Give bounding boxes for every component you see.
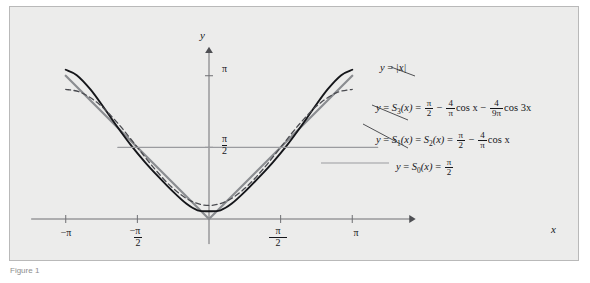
annotation-s0: y = S0(x) = π 2 bbox=[396, 158, 454, 178]
annotation-s3: y = S3(x) = π 2 − 4 π cos x − 4 9π cos 3… bbox=[376, 99, 531, 119]
x-tick-neg-pi-over-2: −π 2 bbox=[123, 226, 147, 248]
frac-4-over-9pi: 4 9π bbox=[490, 99, 503, 119]
annotation-s1-s2: y = S1(x) = S2(x) = π 2 − 4 π cos x bbox=[376, 131, 510, 151]
frac-pi-over-2: π 2 bbox=[457, 131, 466, 151]
x-tick-neg-pi: −π bbox=[54, 228, 78, 239]
annotation-abs-x: y = |x| bbox=[380, 63, 406, 74]
y-tick-pi-over-2: π 2 bbox=[222, 134, 227, 156]
frac-4-over-pi: 4 π bbox=[478, 131, 487, 151]
y-tick-pi: π bbox=[222, 64, 227, 75]
figure-panel: y x π π 2 −π −π 2 π 2 π y = |x| y = S3(x… bbox=[9, 6, 579, 261]
x-tick-pi-over-2: π 2 bbox=[269, 226, 287, 248]
frac-4-over-pi: 4 π bbox=[446, 99, 455, 119]
frac-pi-over-2: π 2 bbox=[445, 158, 454, 178]
frac-pi-over-2: π 2 bbox=[425, 99, 434, 119]
y-axis-label: y bbox=[200, 29, 205, 41]
figure-caption: Figure 1 bbox=[10, 266, 39, 275]
x-tick-pi: π bbox=[347, 228, 365, 239]
x-axis-label: x bbox=[551, 223, 556, 235]
